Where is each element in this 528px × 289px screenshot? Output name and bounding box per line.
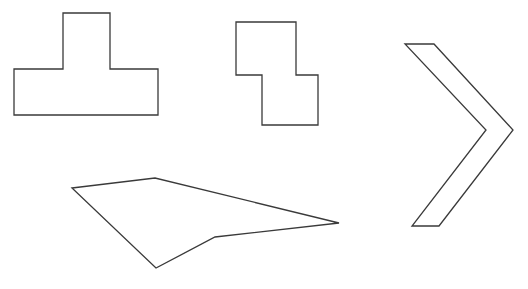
s-shape [236, 22, 318, 125]
t-shape [14, 13, 158, 115]
irregular-quadrilateral [72, 178, 339, 268]
shapes-diagram [0, 0, 528, 289]
chevron-shape [405, 44, 513, 226]
